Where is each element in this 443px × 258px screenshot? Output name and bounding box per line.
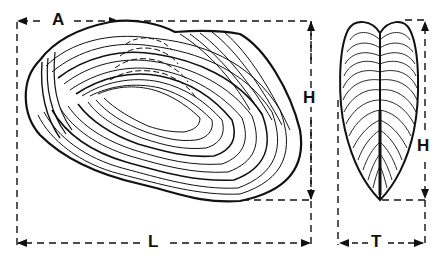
end-view-shell-drawing (340, 22, 418, 200)
lateral-shell-drawing (26, 21, 301, 202)
diagram-canvas (0, 0, 443, 258)
label-h-end: H (415, 137, 431, 155)
label-a: A (50, 11, 66, 29)
label-t: T (369, 233, 383, 251)
shell-measurement-diagram: A H L H T (0, 0, 443, 258)
label-l: L (146, 233, 160, 251)
label-h-lateral: H (301, 89, 317, 107)
